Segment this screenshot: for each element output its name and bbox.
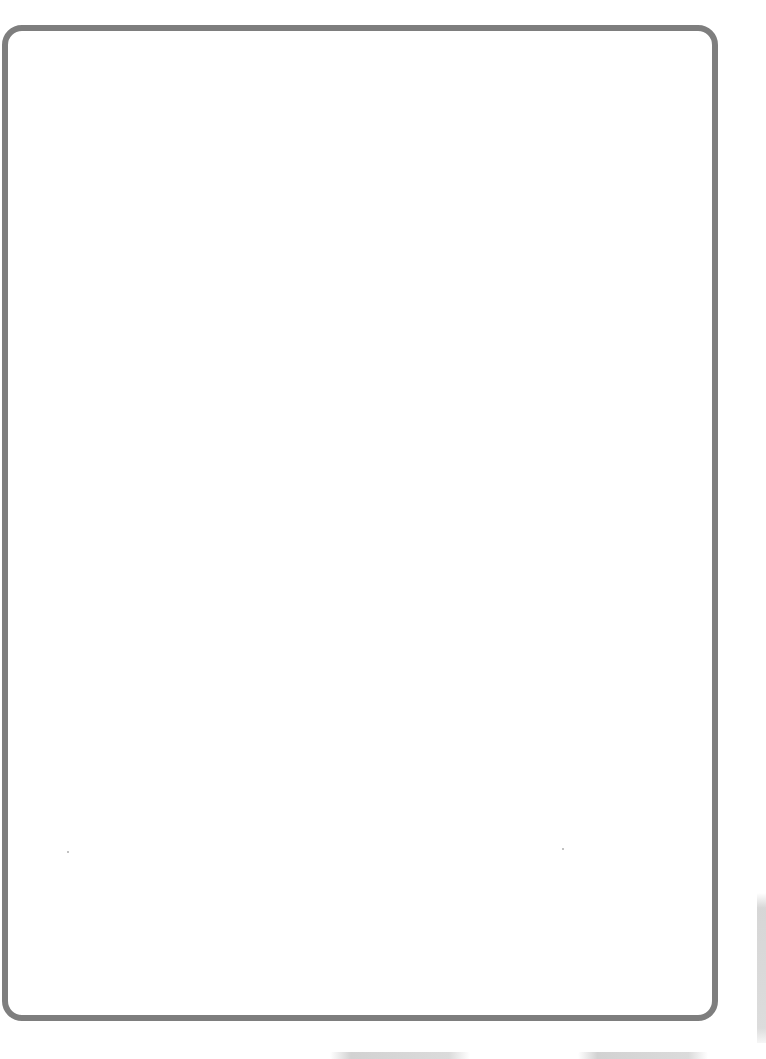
blank-rounded-frame <box>2 25 718 1021</box>
scan-smudge <box>330 1052 470 1059</box>
scan-smudge <box>578 1052 708 1059</box>
scan-speck <box>562 848 564 850</box>
page-canvas <box>0 0 766 1059</box>
scan-edge-smudge <box>757 893 766 1043</box>
scan-speck <box>67 851 69 853</box>
